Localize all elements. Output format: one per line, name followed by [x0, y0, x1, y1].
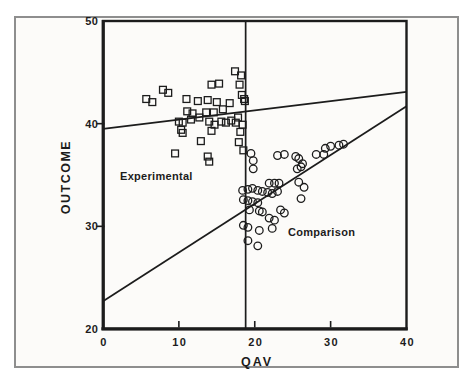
- experimental-point: [237, 128, 244, 135]
- experimental-point: [172, 150, 179, 157]
- x-tick-label: 10: [172, 336, 187, 348]
- comparison-point: [249, 157, 257, 165]
- y-axis-title: OUTCOME: [59, 140, 73, 214]
- x-axis-title: QAV: [241, 355, 273, 369]
- experimental-point: [213, 99, 220, 106]
- x-tick-label: 20: [248, 336, 263, 348]
- x-tick-label: 40: [400, 336, 415, 348]
- comparison-point: [254, 242, 262, 250]
- comparison-point: [268, 225, 276, 233]
- y-tick-label: 30: [85, 220, 98, 232]
- experimental-fit-line: [103, 92, 407, 129]
- experimental-point: [219, 106, 226, 113]
- experimental-point: [208, 81, 215, 88]
- experimental-point: [203, 109, 210, 116]
- figure: 01020304020304050 OUTCOME QAV Experiment…: [0, 0, 476, 381]
- comparison-point: [256, 227, 264, 235]
- y-tick-label: 40: [85, 118, 98, 130]
- comparison-point: [312, 151, 320, 159]
- comparison-point: [297, 195, 305, 203]
- experimental-point: [204, 97, 211, 104]
- experimental-point: [235, 139, 242, 146]
- comparison-point: [259, 188, 267, 196]
- x-tick-label: 30: [324, 336, 339, 348]
- experimental-point: [194, 98, 201, 105]
- experimental-point: [183, 96, 190, 103]
- x-tick-label: 0: [100, 336, 108, 348]
- y-tick-label: 20: [85, 323, 98, 335]
- comparison-point: [335, 141, 343, 149]
- comparison-group-label: Comparison: [288, 226, 355, 238]
- comparison-point: [275, 179, 283, 187]
- comparison-point: [247, 150, 255, 158]
- experimental-point: [216, 80, 223, 87]
- experimental-point: [197, 138, 204, 145]
- experimental-point: [236, 81, 243, 88]
- experimental-point: [226, 100, 233, 107]
- y-tick-label: 50: [85, 15, 98, 27]
- comparison-point: [300, 184, 308, 192]
- comparison-point: [249, 165, 257, 173]
- experimental-group-label: Experimental: [120, 170, 193, 182]
